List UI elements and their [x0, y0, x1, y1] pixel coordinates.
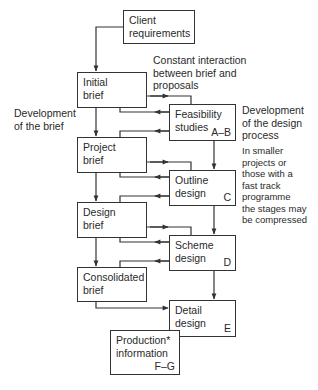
project-brief-label: Project brief [83, 141, 141, 166]
stage-code-a-b: A–B [211, 126, 231, 139]
stage-code-c: C [223, 191, 231, 204]
feasibility-studies-box: Feasibility studies A–B [169, 104, 236, 141]
client-requirements-label: Client requirements [129, 14, 189, 39]
compression-note: In smaller projects or those with a fast… [242, 145, 307, 226]
stage-code-f-g: F–G [155, 360, 175, 373]
initial-brief-box: Initial brief [77, 72, 147, 108]
consolidated-brief-box: Consolidated brief [77, 267, 147, 302]
design-brief-label: Design brief [83, 206, 141, 231]
outline-design-label: Outline design [175, 174, 230, 199]
scheme-design-label: Scheme design [175, 239, 230, 264]
production-information-box: Production* information F–G [110, 330, 180, 375]
stage-code-e: E [224, 322, 231, 335]
brief-development-annotation: Development of the brief [14, 107, 76, 132]
interaction-annotation: Constant interaction between brief and p… [153, 54, 246, 92]
scheme-design-box: Scheme design D [169, 235, 236, 271]
consolidated-brief-label: Consolidated brief [83, 271, 141, 296]
outline-design-box: Outline design C [169, 170, 236, 206]
initial-brief-label: Initial brief [83, 76, 141, 101]
design-brief-flow-diagram: Client requirements Initial brief Feasib… [0, 0, 318, 390]
stage-code-d: D [223, 256, 231, 269]
project-brief-box: Project brief [77, 137, 147, 173]
client-requirements-box: Client requirements [123, 10, 195, 44]
detail-design-label: Detail design [175, 304, 230, 329]
design-brief-box: Design brief [77, 202, 147, 238]
design-development-annotation: Development of the design process [242, 104, 304, 142]
production-information-label: Production* information [116, 334, 174, 359]
